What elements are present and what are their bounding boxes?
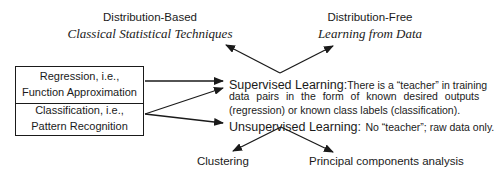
regression-line-1: Regression, i.e.,	[16, 70, 143, 83]
classification-line-2: Pattern Recognition	[16, 120, 143, 133]
unsupervised-body: No “teacher”; raw data only.	[365, 121, 494, 133]
regression-line-2: Function Approximation	[16, 86, 143, 99]
supervised-line-2: data pairs in the form of known desired …	[229, 90, 479, 102]
pca-label: Principal components analysis	[309, 155, 464, 167]
regression-cell: Regression, i.e., Function Approximation	[16, 70, 143, 104]
right-header-title: Distribution-Free	[305, 11, 435, 23]
arrow-to-learning	[280, 46, 333, 73]
unsupervised-lead: Unsupervised Learning:	[229, 120, 361, 134]
classification-line-1: Classification, i.e.,	[16, 104, 143, 117]
arrow-classification-supervised	[145, 88, 223, 114]
unsupervised-learning-text: Unsupervised Learning: No “teacher”; raw…	[229, 117, 494, 135]
supervised-line-3: (regression) or known class labels (clas…	[229, 104, 460, 116]
arrow-to-classical	[226, 45, 280, 73]
clustering-label: Clustering	[197, 155, 249, 167]
arrow-classification-unsupervised	[145, 114, 223, 123]
problem-type-box: Regression, i.e., Function Approximation…	[15, 66, 144, 136]
left-header-subtitle: Classical Statistical Techniques	[55, 26, 245, 42]
left-header-title: Distribution-Based	[75, 11, 225, 23]
right-header-subtitle: Learning from Data	[305, 26, 435, 42]
classification-cell: Classification, i.e., Pattern Recognitio…	[16, 104, 143, 135]
